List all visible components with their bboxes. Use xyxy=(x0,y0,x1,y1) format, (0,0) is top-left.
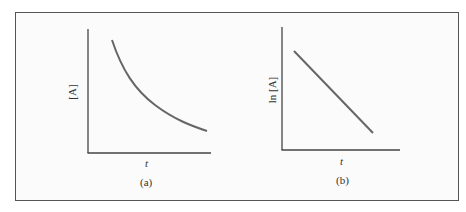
panel-a-caption: (a) xyxy=(140,176,152,188)
panel-a-decay-curve xyxy=(112,40,207,131)
panel-a-xlabel: t xyxy=(145,157,148,169)
panel-b-ylabel: ln [A] xyxy=(266,77,278,104)
panel-a-ylabel: [A] xyxy=(66,84,78,99)
figure-plots xyxy=(0,0,466,212)
panel-a-axes xyxy=(88,29,212,153)
panel-b-axes xyxy=(282,27,401,150)
panel-b-xlabel: t xyxy=(340,155,343,167)
panel-b-linear-line xyxy=(294,51,373,133)
panel-b-caption: (b) xyxy=(336,174,349,186)
